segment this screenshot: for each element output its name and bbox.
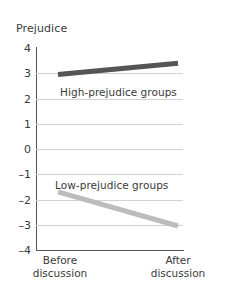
y-tick-label-3: 3: [24, 67, 31, 80]
y-tick-label--1: –1: [19, 168, 32, 181]
low-prejudice-series-label: Low-prejudice groups: [55, 179, 168, 191]
y-tick-label--2: –2: [19, 193, 32, 206]
x-tick-after-line1: After: [151, 254, 205, 267]
y-axis-title: Prejudice: [16, 22, 67, 35]
high-prejudice-series-label: High-prejudice groups: [60, 86, 177, 98]
y-tick-label--4: –4: [19, 244, 32, 257]
x-tick-before-line2: discussion: [33, 267, 87, 280]
y-tick-label-4: 4: [24, 42, 31, 55]
high-prejudice-line: [58, 63, 178, 74]
y-tick-label-2: 2: [24, 92, 31, 105]
plot-area: 43210–1–2–3–4 High-prejudice groups Low-…: [36, 48, 183, 250]
prejudice-line-chart: Prejudice 43210–1–2–3–4 High-prejudice g…: [0, 0, 230, 304]
x-tick-after-discussion: After discussion: [151, 254, 205, 280]
y-tick-label-1: 1: [24, 117, 31, 130]
y-tick-label-0: 0: [24, 143, 31, 156]
x-tick-before-discussion: Before discussion: [33, 254, 87, 280]
x-axis-line: [36, 250, 184, 251]
low-prejudice-line: [58, 192, 178, 226]
x-tick-before-line1: Before: [33, 254, 87, 267]
y-tick-label--3: –3: [19, 218, 32, 231]
series-layer: [36, 48, 183, 250]
x-tick-after-line2: discussion: [151, 267, 205, 280]
